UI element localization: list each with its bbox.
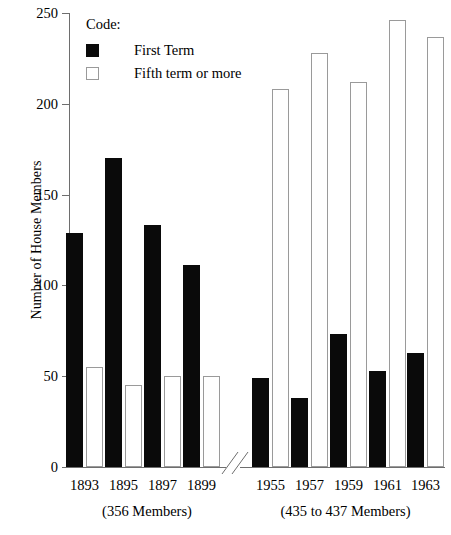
group-note-left: (356 Members) (62, 504, 232, 519)
x-axis-line-right (240, 467, 445, 468)
y-axis-tick (62, 104, 70, 105)
legend: Code: First Term Fifth term or more (86, 17, 242, 89)
legend-label-fifth-term: Fifth term or more (134, 66, 242, 81)
bar-fifth-term-1955 (272, 89, 289, 467)
y-axis-tick-label: 250 (24, 6, 58, 21)
bar-fifth-term-1957 (311, 53, 328, 467)
bar-fifth-term-1897 (164, 376, 181, 467)
axis-break-icon (218, 448, 252, 478)
y-axis-tick-label: 150 (24, 187, 58, 202)
bar-first-term-1893 (66, 233, 83, 467)
legend-label-first-term: First Term (134, 43, 194, 58)
bar-first-term-1961 (369, 371, 386, 467)
bar-fifth-term-1963 (427, 37, 444, 467)
y-axis-tick-label: 0 (24, 460, 58, 475)
bar-first-term-1899 (183, 265, 200, 467)
bar-fifth-term-1961 (389, 20, 406, 467)
y-axis-tick (62, 195, 70, 196)
y-axis-tick-label: 100 (24, 278, 58, 293)
y-axis-tick (62, 13, 70, 14)
legend-item-first-term: First Term (86, 43, 242, 59)
bar-first-term-1963 (407, 353, 424, 467)
y-axis-title: Number of House Members (29, 110, 45, 370)
group-note-right: (435 to 437 Members) (243, 504, 448, 519)
legend-title: Code: (86, 17, 242, 32)
y-axis-tick-label: 50 (24, 369, 58, 384)
y-axis-tick-label: 200 (24, 97, 58, 112)
bar-first-term-1959 (330, 334, 347, 467)
legend-swatch-hollow-icon (86, 67, 99, 80)
x-axis-label-1899: 1899 (174, 478, 230, 493)
x-axis-line-left (69, 467, 226, 468)
bar-chart: Number of House Members 050100150200250 … (0, 0, 451, 535)
bar-fifth-term-1895 (125, 385, 142, 467)
bar-fifth-term-1893 (86, 367, 103, 467)
bar-first-term-1957 (291, 398, 308, 467)
legend-item-fifth-term: Fifth term or more (86, 66, 242, 82)
bar-first-term-1897 (144, 225, 161, 467)
x-axis-label-1963: 1963 (398, 478, 451, 493)
legend-swatch-filled-icon (86, 44, 99, 57)
bar-fifth-term-1959 (350, 82, 367, 467)
bar-first-term-1955 (252, 378, 269, 467)
bar-first-term-1895 (105, 158, 122, 467)
